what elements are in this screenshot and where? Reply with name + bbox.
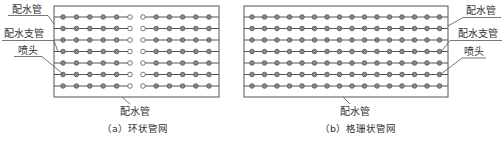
nozzle-icon <box>88 38 93 43</box>
leader-bottom-main-pipe-a <box>122 97 130 104</box>
branch-pipe-row <box>244 72 448 77</box>
nozzle-icon <box>101 15 106 20</box>
nozzle-icon <box>207 72 212 77</box>
nozzle-icon <box>88 49 93 54</box>
nozzle-icon <box>287 15 292 20</box>
nozzle-icon <box>437 15 442 20</box>
nozzle-icon <box>194 26 199 31</box>
nozzle-icon <box>180 15 185 20</box>
nozzle-icon <box>194 72 199 77</box>
nozzle-icon <box>167 84 172 89</box>
nozzle-icon <box>437 38 442 43</box>
nozzle-icon <box>74 26 79 31</box>
nozzle-icon <box>141 26 146 31</box>
label-branch-pipe-a: 配水支管 <box>4 27 44 39</box>
nozzle-icon <box>74 15 79 20</box>
nozzle-icon <box>362 49 367 54</box>
branch-pipe-row <box>54 61 219 66</box>
nozzle-icon <box>400 38 405 43</box>
nozzle-icon <box>437 61 442 66</box>
panel-grid-network: 配水管 配水支管 喷头 配水管 （b）格珊状管网 <box>244 4 502 134</box>
nozzle-icon <box>128 84 133 89</box>
nozzle-icon <box>350 72 355 77</box>
nozzle-icon <box>154 15 159 20</box>
nozzle-icon <box>400 61 405 66</box>
nozzle-icon <box>325 84 330 89</box>
nozzle-icon <box>250 15 255 20</box>
nozzle-icon <box>167 26 172 31</box>
nozzle-icon <box>375 84 380 89</box>
nozzle-icon <box>74 72 79 77</box>
nozzle-icon <box>425 72 430 77</box>
nozzle-icon <box>114 15 119 20</box>
nozzle-icon <box>207 38 212 43</box>
nozzle-icon <box>325 38 330 43</box>
nozzle-icon <box>287 26 292 31</box>
nozzle-icon <box>88 61 93 66</box>
nozzle-icon <box>437 84 442 89</box>
nozzle-icon <box>337 84 342 89</box>
nozzle-icon <box>300 26 305 31</box>
nozzle-icon <box>287 61 292 66</box>
nozzle-icon <box>337 72 342 77</box>
label-branch-pipe-b: 配水支管 <box>458 27 498 39</box>
nozzle-icon <box>300 49 305 54</box>
nozzle-icon <box>154 84 159 89</box>
branch-pipe-row <box>54 72 219 77</box>
leader-nozzle-a <box>14 57 63 75</box>
nozzle-icon <box>180 38 185 43</box>
nozzle-icon <box>194 84 199 89</box>
caption-a: （a）环状管网 <box>102 123 168 134</box>
nozzle-icon <box>194 38 199 43</box>
nozzle-icon <box>141 49 146 54</box>
nozzle-icon <box>275 84 280 89</box>
nozzle-icon <box>325 26 330 31</box>
nozzle-icon <box>437 72 442 77</box>
nozzle-icon <box>275 26 280 31</box>
nozzle-icon <box>312 49 317 54</box>
nozzle-icon <box>287 38 292 43</box>
nozzle-icon <box>88 72 93 77</box>
nozzle-icon <box>167 49 172 54</box>
nozzle-icon <box>128 49 133 54</box>
branch-pipe-rows <box>54 15 219 89</box>
branch-pipe-row <box>244 49 448 54</box>
nozzle-icon <box>425 15 430 20</box>
nozzle-icon <box>362 61 367 66</box>
nozzle-icon <box>180 61 185 66</box>
nozzle-icon <box>350 49 355 54</box>
nozzle-icon <box>387 15 392 20</box>
nozzle-icon <box>275 72 280 77</box>
nozzle-icon <box>61 61 66 66</box>
branch-pipe-row <box>244 61 448 66</box>
nozzle-icon <box>128 72 133 77</box>
nozzle-icon <box>337 49 342 54</box>
nozzle-icon <box>400 84 405 89</box>
nozzle-icon <box>412 38 417 43</box>
nozzle-icon <box>387 49 392 54</box>
nozzle-icon <box>114 72 119 77</box>
nozzle-icon <box>194 61 199 66</box>
nozzle-icon <box>325 61 330 66</box>
nozzle-icon <box>262 49 267 54</box>
nozzle-icon <box>61 38 66 43</box>
nozzle-icon <box>287 84 292 89</box>
nozzle-icon <box>180 72 185 77</box>
nozzle-icon <box>312 61 317 66</box>
nozzle-icon <box>362 72 367 77</box>
nozzle-icon <box>412 49 417 54</box>
nozzle-icon <box>300 84 305 89</box>
branch-pipe-rows <box>244 15 448 89</box>
nozzle-icon <box>101 61 106 66</box>
branch-pipe-row <box>54 38 219 43</box>
nozzle-icon <box>207 26 212 31</box>
nozzle-icon <box>275 38 280 43</box>
nozzle-icon <box>337 61 342 66</box>
leader-bottom-main-pipe-b <box>343 97 350 104</box>
nozzle-icon <box>101 72 106 77</box>
nozzle-icon <box>194 15 199 20</box>
nozzle-icon <box>207 84 212 89</box>
nozzle-icon <box>128 38 133 43</box>
nozzle-icon <box>425 61 430 66</box>
nozzle-icon <box>312 38 317 43</box>
